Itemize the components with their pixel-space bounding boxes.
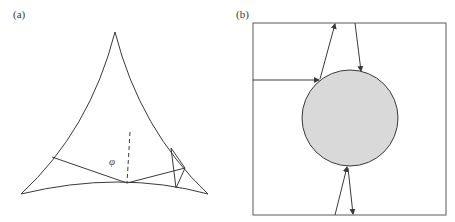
figure: (a) (b) φ [0,0,455,222]
triangle-right-edge [115,32,208,194]
panel-b-diagram [253,23,446,215]
trajectory-arrow-4 [335,167,347,215]
trajectory-arrow-3 [355,23,361,71]
triangle-left-edge [21,32,115,194]
triangle-bottom-edge [21,182,208,194]
normal-dashed-line [127,132,130,183]
panel-a-diagram [21,32,208,194]
trajectory-arrow-2 [320,24,335,79]
diagram-canvas [0,0,455,222]
trajectory-arrow-5 [348,168,353,214]
circular-scatterer [302,70,398,166]
